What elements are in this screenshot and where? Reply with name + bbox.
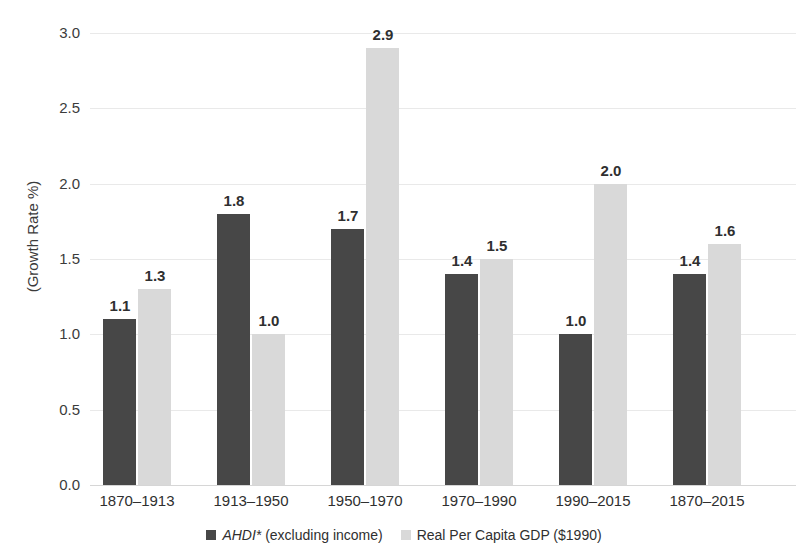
bar-value-label: 1.0	[553, 313, 599, 328]
plot-area: 0.00.51.01.52.02.53.01.11.31.81.01.72.91…	[90, 33, 796, 485]
y-axis-tick-label: 1.0	[34, 326, 80, 341]
bar-value-label: 1.8	[211, 193, 257, 208]
bar-value-label: 2.9	[360, 27, 406, 42]
bar-chart: (Growth Rate %) 0.00.51.01.52.02.53.01.1…	[0, 0, 808, 558]
gridline	[90, 485, 796, 486]
bar-group: 1.81.0	[217, 33, 285, 485]
bar-value-label: 1.4	[439, 253, 485, 268]
bar[interactable]	[217, 214, 250, 485]
y-axis-tick-label: 2.5	[34, 100, 80, 115]
legend-item-ahdi[interactable]: AHDI* (excluding income)	[206, 527, 382, 543]
bar[interactable]	[138, 289, 171, 485]
bar[interactable]	[673, 274, 706, 485]
y-axis-tick-label: 1.5	[34, 251, 80, 266]
bar-value-label: 1.4	[667, 253, 713, 268]
bar[interactable]	[331, 229, 364, 485]
y-axis-tick-label: 0.5	[34, 402, 80, 417]
y-axis-tick-label: 3.0	[34, 25, 80, 40]
bar[interactable]	[708, 244, 741, 485]
bar-value-label: 2.0	[588, 163, 634, 178]
bar-group: 1.11.3	[103, 33, 171, 485]
legend-label-ahdi: AHDI* (excluding income)	[222, 527, 382, 543]
legend-label-gdp: Real Per Capita GDP ($1990)	[417, 527, 602, 543]
bar[interactable]	[103, 319, 136, 485]
legend-swatch-ahdi	[206, 530, 216, 540]
bar-group: 1.41.6	[673, 33, 741, 485]
bar[interactable]	[480, 259, 513, 485]
bar[interactable]	[559, 334, 592, 485]
y-axis-tick-label: 2.0	[34, 176, 80, 191]
bar-value-label: 1.7	[325, 208, 371, 223]
chart-legend: AHDI* (excluding income) Real Per Capita…	[0, 527, 808, 543]
legend-label-ahdi-italic: AHDI*	[222, 527, 261, 543]
bar-group: 1.41.5	[445, 33, 513, 485]
bar-group: 1.72.9	[331, 33, 399, 485]
bar-value-label: 1.3	[132, 268, 178, 283]
legend-swatch-gdp	[401, 530, 411, 540]
bar-value-label: 1.5	[474, 238, 520, 253]
x-axis-tick-label: 1870–2015	[632, 492, 782, 509]
bar-value-label: 1.1	[97, 298, 143, 313]
bar[interactable]	[594, 184, 627, 485]
y-axis-tick-label: 0.0	[34, 477, 80, 492]
bar-value-label: 1.6	[702, 223, 748, 238]
y-axis-title: (Growth Rate %)	[24, 147, 41, 327]
bar-group: 1.02.0	[559, 33, 627, 485]
legend-item-gdp[interactable]: Real Per Capita GDP ($1990)	[401, 527, 602, 543]
bar[interactable]	[445, 274, 478, 485]
legend-label-ahdi-rest: (excluding income)	[265, 527, 383, 543]
bar[interactable]	[366, 48, 399, 485]
bar-value-label: 1.0	[246, 313, 292, 328]
bar[interactable]	[252, 334, 285, 485]
